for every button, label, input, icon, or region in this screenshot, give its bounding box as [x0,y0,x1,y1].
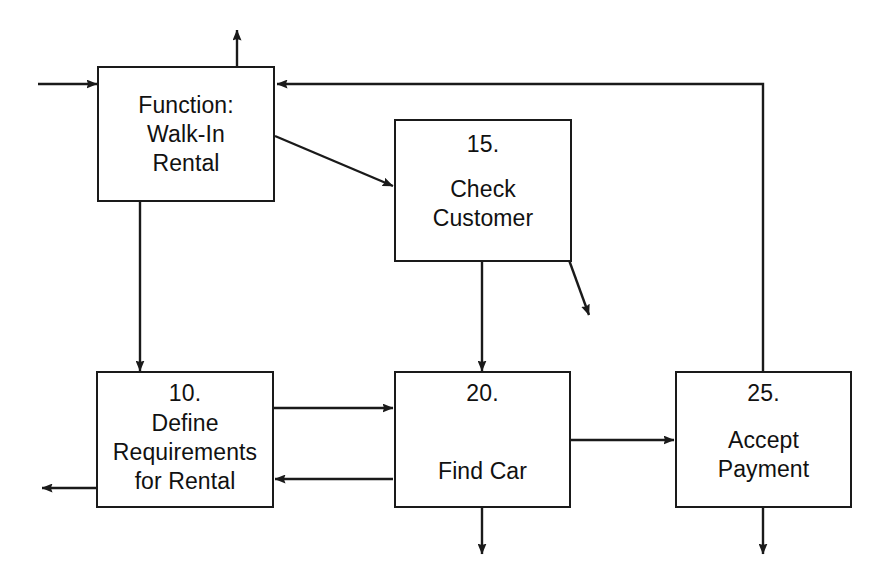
node-check-customer-number: 15. [467,130,500,158]
node-check-customer-label: Check Customer [433,175,534,233]
node-find-car-number: 20. [466,379,499,407]
node-define-requirements-label: Define Requirements for Rental [113,409,257,496]
diagram-canvas: Function: Walk-In Rental 15. Check Custo… [0,0,885,577]
edge-check-customer-output-diagonal [569,260,589,315]
node-accept-payment[interactable]: 25. Accept Payment [675,371,852,508]
node-define-requirements-for-rental[interactable]: 10. Define Requirements for Rental [96,371,274,508]
node-check-customer[interactable]: 15. Check Customer [394,119,572,262]
node-function-walk-in-rental[interactable]: Function: Walk-In Rental [97,66,275,202]
node-accept-payment-label: Accept Payment [718,426,809,484]
node-accept-payment-number: 25. [747,379,780,407]
node-find-car[interactable]: 20. Find Car [394,371,571,508]
edge-function-to-check-customer [275,136,393,186]
node-find-car-label: Find Car [438,457,527,486]
node-function-label: Function: Walk-In Rental [138,91,234,178]
node-define-requirements-number: 10. [169,379,202,407]
